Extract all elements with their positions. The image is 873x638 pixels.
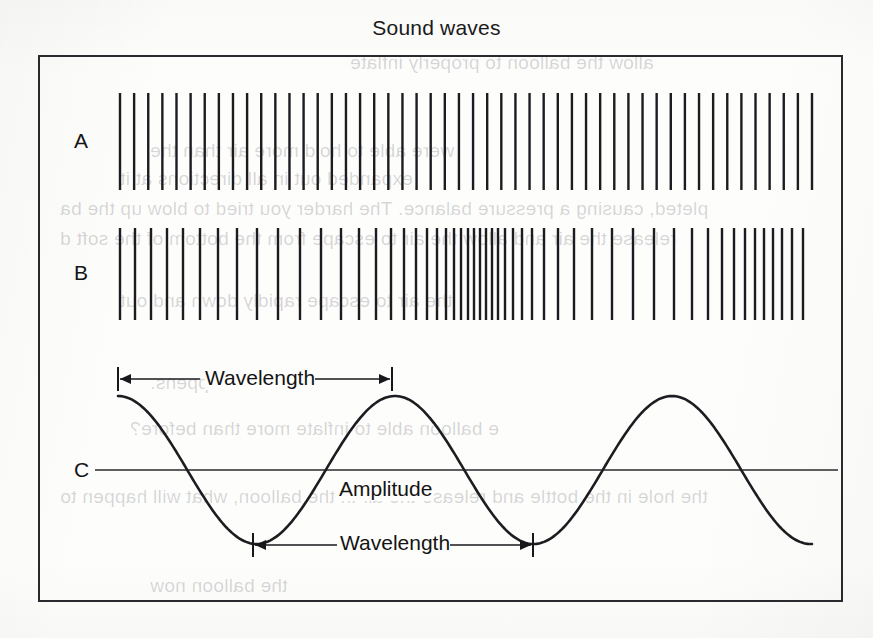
wavelength-label-top: Wavelength [205, 366, 315, 390]
figure-page: allow the balloon to properly inflatewer… [0, 0, 873, 638]
wavelength-dimension-top-arrowhead-right [379, 374, 390, 384]
amplitude-label: Amplitude [339, 477, 432, 501]
wavelength-dimension-bottom-arrowhead-left [255, 540, 266, 550]
wavelength-dimension-top-arrowhead-left [120, 374, 131, 384]
wavelength-label-bottom: Wavelength [340, 531, 450, 555]
